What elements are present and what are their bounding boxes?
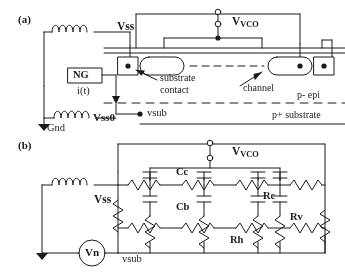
component-label-cb: Cb [176, 202, 189, 213]
voltage-source-label-vn: Vn [85, 247, 99, 258]
figure-substrate-coupling-model: (a) Vss VVCO NG i(t) Vss0 vsub Gnd subst… [0, 0, 345, 275]
node-label-vvco-a: VVCO [232, 16, 259, 29]
panel-a-surface [104, 48, 345, 53]
node-label-vvco-b: VVCO [232, 146, 259, 159]
capacitors-cc [143, 172, 287, 185]
node-label-vsub-b: vsub [122, 254, 142, 265]
figure-vector-graphics [0, 0, 345, 275]
component-label-rc: Rc [263, 191, 275, 202]
noise-generator-label: NG [73, 70, 89, 81]
panel-a-label: (a) [18, 14, 31, 25]
annotation-substrate-contact: substrate contact [160, 73, 196, 95]
node-label-vss0: Vss0 [93, 112, 115, 123]
annotation-channel: channel [243, 83, 274, 93]
component-label-rv: Rv [290, 212, 303, 223]
inductor-b [52, 178, 87, 185]
inductor-top-a [52, 25, 87, 32]
inductor-bottom-a [54, 111, 89, 118]
component-label-rh: Rh [230, 235, 243, 246]
node-label-gnd: Gnd [47, 123, 65, 134]
annotation-p-substrate: p+ substrate [272, 110, 321, 120]
node-label-vss-a: Vss [117, 21, 134, 33]
current-source-label: i(t) [77, 86, 90, 97]
node-label-vss-b: Vss [94, 194, 111, 206]
annotation-p-epi: p- epi [297, 90, 320, 100]
ground-symbol-b [36, 253, 48, 260]
panel-b-label: (b) [18, 140, 31, 151]
panel-a-vsub-node [116, 104, 143, 117]
component-label-cc: Cc [176, 167, 188, 178]
node-label-vsub-a: vsub [147, 108, 167, 119]
